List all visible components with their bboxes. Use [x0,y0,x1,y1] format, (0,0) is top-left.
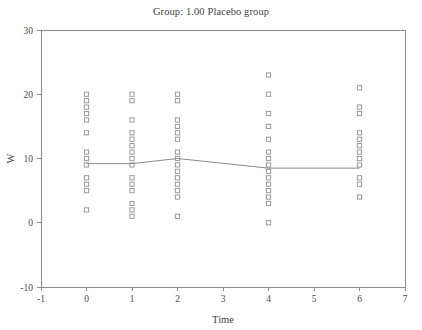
y-tick-label: 30 [24,26,34,36]
data-point-marker [357,137,361,141]
y-tick-label: 10 [24,154,34,164]
data-point-marker [84,150,88,154]
data-point-marker [130,182,134,186]
data-point-marker [84,208,88,212]
y-axis-title: W [5,153,16,163]
data-point-marker [175,131,179,135]
y-tick-label: -10 [20,283,33,293]
data-point-marker [130,208,134,212]
data-point-marker [175,99,179,103]
x-axis-ticks: -101234567 [37,287,408,304]
data-point-marker [84,176,88,180]
data-point-marker [175,169,179,173]
data-point-marker [130,156,134,160]
data-point-marker [266,195,270,199]
data-point-marker [266,73,270,77]
data-point-marker [266,163,270,167]
data-point-marker [84,131,88,135]
data-point-marker [357,195,361,199]
data-point-marker [130,92,134,96]
data-point-marker [266,169,270,173]
y-axis-ticks: -100102030 [20,26,41,293]
data-point-marker [84,92,88,96]
data-point-marker [357,111,361,115]
scatter-plot: -101234567 -100102030 Time W [0,0,422,330]
data-point-marker [84,189,88,193]
data-point-marker [357,156,361,160]
y-tick-label: 0 [28,218,33,228]
data-point-marker [175,214,179,218]
mean-profile-line [87,159,360,169]
data-point-marker [266,189,270,193]
x-tick-label: 1 [130,294,135,304]
x-tick-label: 0 [84,294,89,304]
data-point-marker [266,182,270,186]
data-point-marker [266,150,270,154]
data-point-marker [266,92,270,96]
data-point-marker [266,176,270,180]
data-point-marker [357,182,361,186]
data-point-marker [130,150,134,154]
data-point-marker [175,92,179,96]
x-tick-label: 3 [221,294,226,304]
x-tick-label: 6 [357,294,362,304]
data-point-marker [266,111,270,115]
data-point-marker [175,124,179,128]
x-tick-label: 5 [312,294,317,304]
chart-root: Group: 1.00 Placebo group -101234567 -10… [0,0,422,330]
data-point-marker [130,118,134,122]
data-point-marker [175,182,179,186]
plot-frame [41,30,405,287]
data-markers [84,73,361,225]
data-point-marker [130,214,134,218]
data-point-marker [130,131,134,135]
data-point-marker [357,144,361,148]
data-point-marker [130,176,134,180]
data-point-marker [84,99,88,103]
x-tick-label: 2 [175,294,180,304]
data-point-marker [84,118,88,122]
data-point-marker [357,163,361,167]
data-point-marker [130,201,134,205]
data-point-marker [266,156,270,160]
data-point-marker [175,176,179,180]
data-point-marker [266,221,270,225]
plot-frame-rect [41,30,405,287]
data-point-marker [357,150,361,154]
data-point-marker [130,189,134,193]
data-point-marker [175,150,179,154]
data-point-marker [130,137,134,141]
data-point-marker [130,144,134,148]
data-point-marker [130,99,134,103]
data-point-marker [357,176,361,180]
data-point-marker [84,156,88,160]
data-point-marker [175,163,179,167]
data-point-marker [357,86,361,90]
x-tick-label: 7 [403,294,408,304]
data-point-marker [357,105,361,109]
x-axis-title: Time [212,314,234,325]
data-point-marker [175,118,179,122]
data-point-marker [84,182,88,186]
data-point-marker [357,131,361,135]
data-point-marker [84,105,88,109]
x-tick-label: 4 [266,294,271,304]
x-tick-label: -1 [37,294,45,304]
y-tick-label: 20 [24,90,34,100]
data-point-marker [175,195,179,199]
data-point-marker [84,111,88,115]
data-point-marker [175,137,179,141]
data-point-marker [266,124,270,128]
data-point-marker [266,201,270,205]
data-point-marker [266,137,270,141]
data-point-marker [175,189,179,193]
